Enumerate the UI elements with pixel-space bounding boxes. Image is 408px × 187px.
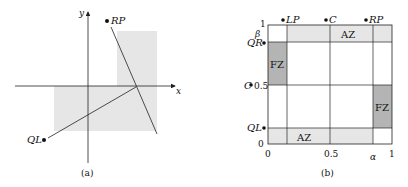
point-c-top-label: C (329, 14, 337, 25)
x-tick-05: 0.5 (324, 149, 339, 159)
az-top-strip-right (373, 25, 392, 42)
point-ql-b (262, 126, 266, 130)
point-rp-top-label: RP (368, 14, 384, 25)
x-axis-label-alpha: α (370, 152, 376, 162)
x-tick-1: 1 (389, 149, 395, 159)
point-ql (42, 138, 46, 142)
az-top-label: AZ (340, 29, 355, 40)
panel-b: AZ AZ FZ FZ LP C RP 1 β QR C 0.5 QL 0 0 … (244, 14, 395, 178)
point-lp (281, 18, 285, 22)
point-qr (262, 41, 266, 45)
point-qr-label: QR (247, 37, 263, 48)
point-rp-label: RP (110, 15, 126, 26)
point-rp-top (364, 18, 368, 22)
x-axis-label: x (176, 86, 181, 96)
point-ql-label: QL (27, 134, 42, 145)
caption-b: (b) (321, 168, 334, 178)
caption-a: (a) (81, 168, 93, 178)
point-rp (105, 19, 109, 23)
x-tick-0: 0 (265, 149, 271, 159)
y-tick-1: 1 (260, 19, 266, 29)
point-c-left (249, 83, 253, 87)
y-tick-0: 0 (258, 139, 264, 149)
shaded-region-lower (54, 86, 157, 131)
y-axis-label: y (78, 8, 85, 18)
fz-right-label: FZ (375, 102, 389, 113)
figure: x y RP QL (a) AZ AZ FZ FZ LP C (0, 0, 408, 187)
point-lp-label: LP (285, 14, 300, 25)
fz-left-label: FZ (270, 59, 284, 70)
panel-a: x y RP QL (a) (15, 8, 181, 178)
point-c-top (324, 18, 328, 22)
az-bottom-strip (268, 128, 373, 144)
shaded-region-upper (117, 31, 157, 86)
y-tick-05: 0.5 (254, 81, 269, 91)
az-bottom-label: AZ (296, 132, 311, 143)
point-ql-label-b: QL (247, 122, 262, 133)
